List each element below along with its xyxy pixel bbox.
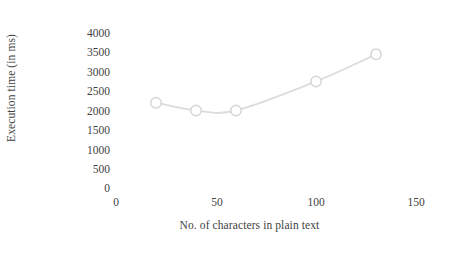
x-axis-title-text: No. of characters in plain text bbox=[180, 219, 320, 231]
data-point-40 bbox=[191, 105, 201, 115]
x-axis-title: No. of characters in plain text bbox=[0, 219, 455, 231]
data-point-20 bbox=[151, 98, 161, 108]
series-line bbox=[156, 54, 376, 113]
data-point-60 bbox=[231, 105, 241, 115]
data-point-100 bbox=[311, 76, 321, 86]
data-point-130 bbox=[371, 49, 381, 59]
line-chart-figure: Execution time (in ms) 4000 3500 3000 25… bbox=[0, 0, 455, 257]
series-markers bbox=[151, 49, 381, 116]
